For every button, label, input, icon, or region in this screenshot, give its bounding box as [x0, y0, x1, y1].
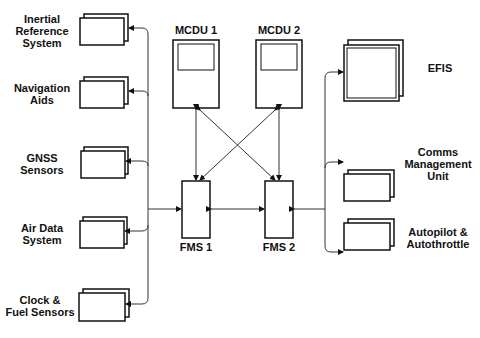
ap-label: Autopilot & Autothrottle [398, 226, 478, 250]
cmu-box [344, 170, 394, 201]
fms1-box [182, 181, 210, 238]
cmu-label: Comms Management Unit [398, 146, 478, 182]
nav-label: Navigation Aids [8, 82, 76, 106]
mcdu1-label: MCDU 1 [170, 24, 222, 36]
efis-label: EFIS [410, 62, 470, 74]
gnss-label: GNSS Sensors [8, 152, 76, 176]
ap-box [344, 219, 394, 250]
fms2-box [265, 181, 293, 238]
gnss-box [81, 147, 128, 178]
irs-box [80, 14, 128, 45]
fms2-label: FMS 2 [253, 241, 305, 253]
clock-box [79, 289, 129, 321]
fms1-label: FMS 1 [170, 241, 222, 253]
mcdu2-label: MCDU 2 [253, 24, 305, 36]
adc-box [80, 217, 127, 248]
clock-label: Clock & Fuel Sensors [0, 294, 80, 318]
efis-box [344, 40, 403, 101]
adc-label: Air Data System [8, 222, 76, 246]
nav-box [80, 77, 128, 108]
irs-label: Inertial Reference System [8, 13, 76, 49]
